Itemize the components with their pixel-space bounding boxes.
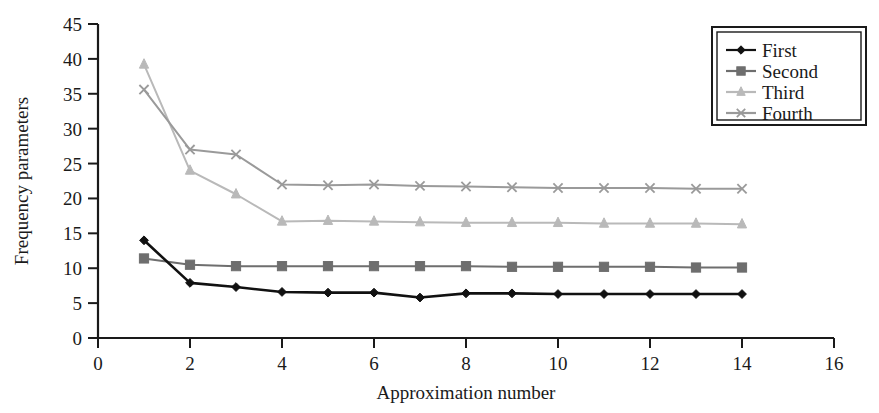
marker-square	[737, 67, 745, 75]
marker-square	[553, 262, 562, 271]
chart-legend: FirstSecondThirdFourth	[712, 27, 866, 125]
y-tick-label: 30	[63, 119, 82, 140]
marker-square	[139, 254, 148, 263]
legend-label: Third	[762, 82, 805, 103]
marker-square	[277, 262, 286, 271]
marker-square	[645, 262, 654, 271]
line-chart: 051015202530354045 0246810121416 Approxi…	[0, 0, 879, 413]
y-tick-label: 10	[63, 258, 82, 279]
marker-square	[231, 262, 240, 271]
legend-label: Fourth	[762, 103, 813, 124]
x-axis-title: Approximation number	[377, 382, 557, 403]
y-tick-label: 20	[63, 188, 82, 209]
x-tick-label: 0	[93, 353, 103, 374]
x-tick-label: 12	[641, 353, 660, 374]
marker-square	[599, 262, 608, 271]
legend-label: Second	[762, 61, 818, 82]
y-tick-label: 0	[73, 328, 83, 349]
marker-square	[185, 260, 194, 269]
y-tick-label: 35	[63, 84, 82, 105]
x-tick-label: 8	[461, 353, 471, 374]
marker-square	[369, 262, 378, 271]
x-tick-label: 16	[825, 353, 844, 374]
marker-square	[691, 263, 700, 272]
legend-label: First	[762, 40, 798, 61]
x-tick-label: 10	[549, 353, 568, 374]
chart-figure: 051015202530354045 0246810121416 Approxi…	[0, 0, 879, 413]
y-tick-label: 15	[63, 223, 82, 244]
y-axis-ticks: 051015202530354045	[63, 14, 98, 349]
x-tick-label: 6	[369, 353, 379, 374]
y-tick-label: 25	[63, 154, 82, 175]
marker-square	[415, 262, 424, 271]
y-tick-label: 45	[63, 14, 82, 35]
y-tick-label: 5	[73, 293, 83, 314]
marker-square	[737, 263, 746, 272]
marker-square	[461, 262, 470, 271]
marker-square	[323, 262, 332, 271]
x-tick-label: 14	[733, 353, 753, 374]
y-axis-title: Frequency parameters	[11, 97, 32, 265]
x-tick-label: 2	[185, 353, 195, 374]
y-tick-label: 40	[63, 49, 82, 70]
x-tick-label: 4	[277, 353, 287, 374]
marker-square	[507, 262, 516, 271]
x-axis-ticks: 0246810121416	[93, 338, 843, 374]
